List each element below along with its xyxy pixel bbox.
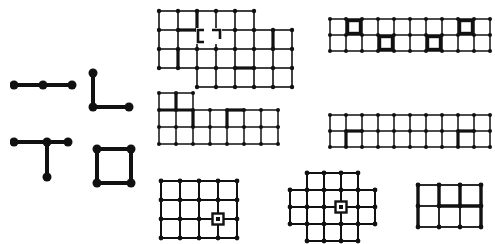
- lattice-vertex: [157, 142, 161, 146]
- lattice-vertex: [322, 222, 327, 227]
- lattice-vertex: [214, 47, 218, 51]
- cross-lattice-bottom-middle: [287, 170, 378, 244]
- lattice-vertex: [360, 113, 364, 117]
- graph-node: [93, 145, 102, 154]
- lattice-vertex: [259, 142, 263, 146]
- lattice-vertex: [356, 188, 361, 193]
- lattice-vertex: [456, 17, 460, 21]
- lattice-vertex: [424, 113, 428, 117]
- lattice-vertex: [191, 142, 195, 146]
- lattice-vertex: [392, 113, 396, 117]
- lattice-vertex: [159, 236, 164, 241]
- lattice-vertex: [216, 179, 221, 184]
- lattice-vertex: [252, 9, 256, 13]
- lattice-vertex: [235, 198, 240, 203]
- lattice-vertex: [174, 125, 178, 129]
- lattice-vertex: [408, 129, 412, 133]
- lattice-vertex: [472, 17, 476, 21]
- graph-node: [127, 179, 136, 188]
- lattice-vertex: [322, 239, 327, 244]
- lattice-vertex: [242, 108, 246, 112]
- lattice-vertex: [290, 85, 294, 89]
- lattice-vertex: [356, 205, 361, 210]
- lattice-vertex: [440, 113, 444, 117]
- lattice-vertex: [195, 66, 199, 70]
- lattice-vertex: [176, 47, 180, 51]
- lattice-vertex: [191, 108, 195, 112]
- lattice-vertex: [214, 66, 218, 70]
- lattice-vertex: [290, 28, 294, 32]
- lattice-highlight-cell: [348, 21, 361, 34]
- lattice-vertex: [305, 171, 310, 176]
- lattice-vertex: [328, 33, 332, 37]
- lattice-vertex: [233, 66, 237, 70]
- graph-node: [39, 81, 48, 90]
- lattice-vertex: [360, 17, 364, 21]
- lattice-highlight-cell: [428, 37, 441, 50]
- lattice-vertex: [216, 198, 221, 203]
- lattice-vertex: [242, 142, 246, 146]
- lattice-vertex: [437, 204, 442, 209]
- lattice-vertex: [322, 171, 327, 176]
- lattice-vertex: [356, 239, 361, 244]
- lattice-vertex: [488, 33, 492, 37]
- lattice-vertex: [328, 49, 332, 53]
- lattice-vertex: [195, 47, 199, 51]
- lattice-vertex: [344, 113, 348, 117]
- lattice-vertex: [157, 108, 161, 112]
- lattice-vertex: [356, 171, 361, 176]
- lattice-vertex: [178, 198, 183, 203]
- lattice-vertex: [328, 145, 332, 149]
- lattice-vertex: [344, 49, 348, 53]
- lattice-vertex: [472, 145, 476, 149]
- lattice-vertex: [159, 179, 164, 184]
- lattice-vertex: [424, 129, 428, 133]
- path-graph: [10, 76, 78, 96]
- lattice-vertex: [225, 125, 229, 129]
- lattice-vertex: [252, 66, 256, 70]
- lattice-vertex: [235, 217, 240, 222]
- lattice-vertex: [376, 17, 380, 21]
- lattice-vertex: [360, 49, 364, 53]
- lattice-vertex: [288, 205, 293, 210]
- lattice-vertex: [271, 47, 275, 51]
- lattice-highlight-cell: [380, 37, 393, 50]
- lattice-vertex: [233, 28, 237, 32]
- graph-node: [89, 69, 98, 78]
- graph-node: [89, 103, 98, 112]
- lattice-vertex: [344, 17, 348, 21]
- lattice-vertex: [356, 222, 361, 227]
- lattice-vertex: [488, 129, 492, 133]
- lattice-vertex: [458, 204, 463, 209]
- lattice-vertex: [195, 85, 199, 89]
- lattice-vertex: [197, 198, 202, 203]
- lattice-vertex: [376, 113, 380, 117]
- lattice-vertex: [344, 129, 348, 133]
- lattice-vertex: [416, 183, 421, 188]
- lattice-vertex: [440, 145, 444, 149]
- graph-node: [93, 179, 102, 188]
- lattice-vertex: [178, 179, 183, 184]
- stepped-lattice-top: [156, 8, 295, 90]
- graph-node: [125, 103, 134, 112]
- graph-node: [127, 145, 136, 154]
- lattice-vertex: [488, 49, 492, 53]
- lattice-vertex: [276, 142, 280, 146]
- lattice-vertex: [456, 129, 460, 133]
- lattice-vertex: [416, 204, 421, 209]
- lattice-vertex: [339, 222, 344, 227]
- lattice-vertex: [276, 108, 280, 112]
- lattice-vertex: [456, 49, 460, 53]
- lattice-vertex: [408, 49, 412, 53]
- lattice-vertex: [472, 49, 476, 53]
- lattice-vertex: [373, 188, 378, 193]
- lattice-vertex: [376, 129, 380, 133]
- lattice-vertex: [176, 9, 180, 13]
- lattice-vertex: [424, 17, 428, 21]
- lattice-vertex: [290, 47, 294, 51]
- lattice-vertex: [440, 33, 444, 37]
- lattice-vertex: [322, 205, 327, 210]
- lattice-vertex: [208, 125, 212, 129]
- lattice-vertex: [408, 33, 412, 37]
